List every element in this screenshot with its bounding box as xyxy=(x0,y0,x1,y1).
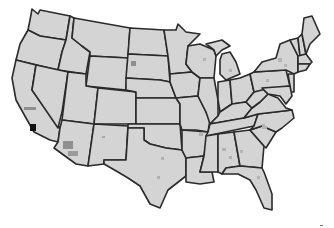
state-florida[interactable] xyxy=(222,166,272,210)
county-light-new-york[interactable] xyxy=(278,58,282,62)
state-connecticut-ri[interactable] xyxy=(298,64,310,72)
state-wyoming[interactable] xyxy=(86,56,128,90)
county-light-texas-1[interactable] xyxy=(161,157,164,160)
state-colorado[interactable] xyxy=(94,88,136,124)
county-medium-south-dakota[interactable] xyxy=(131,61,136,66)
county-light-new-mexico[interactable] xyxy=(102,136,105,138)
county-light-wisconsin[interactable] xyxy=(203,58,206,61)
state-massachusetts[interactable] xyxy=(298,54,312,64)
county-light-new-york-2[interactable] xyxy=(284,64,287,67)
state-iowa[interactable] xyxy=(170,72,200,98)
stray-mark xyxy=(320,225,323,226)
county-light-alabama-2[interactable] xyxy=(229,156,232,159)
county-light-north-carolina[interactable] xyxy=(262,124,265,126)
county-light-arkansas[interactable] xyxy=(199,132,203,136)
county-light-carolinas[interactable] xyxy=(262,126,267,129)
county-light-texas-2[interactable] xyxy=(157,176,160,179)
map-svg xyxy=(0,0,334,228)
state-arizona[interactable] xyxy=(54,120,94,166)
county-light-pennsylvania[interactable] xyxy=(266,79,269,82)
county-light-florida[interactable] xyxy=(257,176,260,179)
state-north-dakota[interactable] xyxy=(128,28,168,56)
county-dark-southern-california[interactable] xyxy=(30,124,36,131)
county-light-georgia[interactable] xyxy=(240,150,243,153)
county-light-alabama-1[interactable] xyxy=(222,148,226,151)
county-medium-central-california[interactable] xyxy=(24,107,36,110)
state-maine[interactable] xyxy=(302,16,320,54)
county-light-michigan[interactable] xyxy=(229,69,232,72)
county-medium-central-arizona[interactable] xyxy=(63,141,73,149)
county-medium-southern-arizona[interactable] xyxy=(68,151,78,156)
state-kansas[interactable] xyxy=(136,98,180,124)
us-choropleth-map xyxy=(0,0,334,228)
state-new-york[interactable] xyxy=(254,40,298,74)
